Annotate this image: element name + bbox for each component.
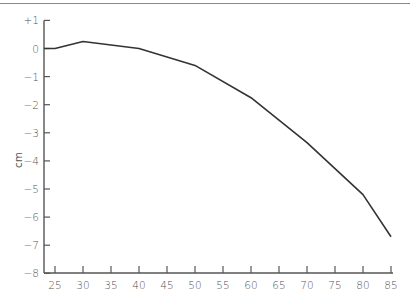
data-line: [44, 42, 391, 237]
x-tick-label: 80: [356, 279, 369, 291]
y-axis: +10−1−2−3−4−5−6−7−8: [24, 14, 50, 279]
y-axis-label: cm: [12, 152, 24, 168]
y-tick-label: −5: [24, 183, 39, 195]
plot-area: [44, 42, 391, 237]
y-tick-label: 0: [32, 43, 39, 55]
x-tick-label: 55: [216, 279, 229, 291]
y-tick-label: −4: [24, 155, 39, 167]
x-tick-label: 70: [300, 279, 313, 291]
x-tick-label: 35: [104, 279, 117, 291]
line-chart: +10−1−2−3−4−5−6−7−8 25303540455055606570…: [0, 0, 415, 305]
x-tick-label: 25: [48, 279, 61, 291]
y-tick-label: +1: [24, 14, 39, 26]
x-tick-label: 45: [160, 279, 173, 291]
x-tick-label: 75: [328, 279, 341, 291]
x-tick-label: 85: [384, 279, 397, 291]
y-tick-label: −7: [24, 239, 39, 251]
y-tick-label: −2: [24, 99, 39, 111]
y-tick-label: −6: [24, 211, 39, 223]
y-tick-label: −8: [24, 267, 39, 279]
x-tick-label: 30: [76, 279, 89, 291]
x-tick-label: 40: [132, 279, 145, 291]
y-tick-label: −1: [24, 71, 39, 83]
y-tick-label: −3: [24, 127, 39, 139]
x-tick-label: 65: [272, 279, 285, 291]
x-tick-label: 60: [244, 279, 257, 291]
x-tick-label: 50: [188, 279, 201, 291]
x-axis: 25303540455055606570758085: [44, 266, 398, 291]
